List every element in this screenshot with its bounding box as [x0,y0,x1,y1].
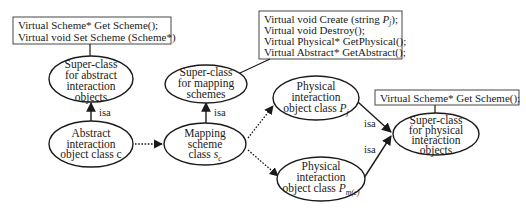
mapping-class-node: Mapping scheme class sc [164,123,246,165]
physical-class-j-node: Physical interaction object class Pj [273,76,359,120]
node-label-line: schemes [187,88,226,100]
class-hierarchy-diagram: Virtual Scheme* Get Scheme(); Virtual vo… [0,0,526,210]
mapping-to-physical-j-edge [248,106,273,138]
abstract-methods-box: Virtual Scheme* Get Scheme(); Virtual vo… [13,17,176,44]
abstract-superclass-node: Super-class for abstract interaction obj… [49,56,133,104]
node-label-line: object class c [60,148,121,161]
abstract-isa-label: isa [99,107,111,118]
physical-j-isa-label: isa [364,118,376,129]
mapping-to-physical-mc-edge [248,150,278,176]
physical-mc-isa-label: isa [364,144,376,155]
physical-methods-box: Virtual Scheme* Get Scheme(); [375,90,520,105]
mapping-superclass-node: Super-class for mapping schemes [165,65,247,103]
physical-class-mc-node: Physical interaction object class Pm(c) [277,157,365,201]
physical-method-line: Virtual Scheme* Get Scheme(); [380,92,520,105]
mapping-method-line: Virtual Abstract* GetAbstract(); [264,46,406,59]
node-label-line: objects [420,144,453,157]
node-label-line: objects [75,91,108,104]
abstract-class-node: Abstract interaction object class c [49,121,133,167]
physical-mc-isa-edge [364,136,391,178]
mapping-methods-box: Virtual void Create (string Pj); Virtual… [259,11,406,59]
physical-superclass-node: Super-class for physical interaction obj… [393,113,479,157]
mapping-isa-label: isa [214,107,226,118]
abstract-method-line: Virtual void Set Scheme (Scheme*) [18,31,176,44]
